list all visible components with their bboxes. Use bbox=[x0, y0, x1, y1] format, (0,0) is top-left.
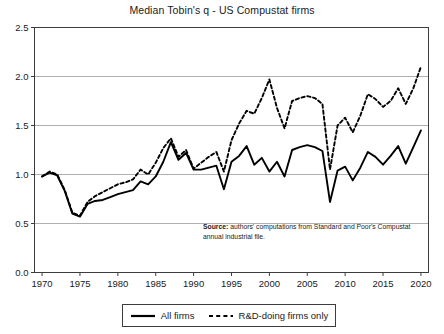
svg-text:0.0: 0.0 bbox=[15, 267, 28, 278]
svg-text:2.5: 2.5 bbox=[15, 22, 28, 33]
svg-text:2015: 2015 bbox=[372, 278, 393, 289]
legend-swatch-dashed-icon bbox=[208, 312, 234, 320]
svg-text:1.0: 1.0 bbox=[15, 169, 28, 180]
series-line-rd-firms bbox=[42, 67, 421, 216]
svg-text:0.5: 0.5 bbox=[15, 218, 28, 229]
source-note-label: Source: bbox=[203, 223, 228, 230]
svg-text:1975: 1975 bbox=[69, 278, 90, 289]
legend-label-all-firms: All firms bbox=[161, 310, 195, 321]
svg-text:1980: 1980 bbox=[107, 278, 128, 289]
svg-text:2005: 2005 bbox=[297, 278, 318, 289]
svg-text:1990: 1990 bbox=[183, 278, 204, 289]
data-series-layer bbox=[42, 67, 421, 217]
svg-text:1.5: 1.5 bbox=[15, 120, 28, 131]
svg-text:2010: 2010 bbox=[335, 278, 356, 289]
x-axis-ticks: 1970197519801985199019952000200520102015… bbox=[32, 273, 432, 289]
legend-entry-all-firms: All firms bbox=[130, 310, 195, 321]
svg-text:1970: 1970 bbox=[32, 278, 53, 289]
svg-text:2.0: 2.0 bbox=[15, 71, 28, 82]
svg-text:1995: 1995 bbox=[221, 278, 242, 289]
svg-text:1985: 1985 bbox=[145, 278, 166, 289]
source-note-text: authors' computations from Standard and … bbox=[203, 223, 410, 240]
y-axis-ticks: 0.00.51.01.52.02.5 bbox=[15, 22, 34, 278]
plot-area: 0.00.51.01.52.02.5 197019751980198519901… bbox=[0, 0, 444, 334]
source-note: Source: authors' computations from Stand… bbox=[203, 222, 417, 242]
chart-figure: Median Tobin's q - US Compustat firms 0.… bbox=[0, 0, 444, 334]
chart-legend: All firms R&D-doing firms only bbox=[122, 304, 336, 327]
legend-entry-rd-firms: R&D-doing firms only bbox=[208, 310, 329, 321]
svg-text:2000: 2000 bbox=[259, 278, 280, 289]
legend-label-rd-firms: R&D-doing firms only bbox=[239, 310, 329, 321]
legend-swatch-solid-icon bbox=[130, 312, 156, 320]
svg-text:2020: 2020 bbox=[410, 278, 431, 289]
